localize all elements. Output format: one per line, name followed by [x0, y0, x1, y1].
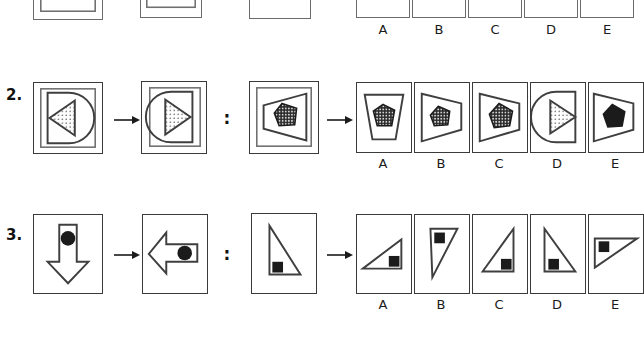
row3-option-letter-b: B: [414, 297, 468, 312]
question-row-2: 2.: [0, 82, 633, 167]
row3-prompt-panel-b[interactable]: [142, 214, 208, 294]
row3-option-panel-e[interactable]: [588, 214, 644, 294]
question-row-3: 3. :: [0, 214, 633, 309]
row2-prompt-panel-c[interactable]: [249, 81, 319, 154]
row1-prompt-panel-a[interactable]: [33, 0, 103, 20]
row1-prompt-panel-b[interactable]: [140, 0, 202, 18]
row2-option-letter-a: A: [356, 156, 410, 171]
row2-prompt-c-graphic: [250, 82, 318, 153]
row2-arrow-icon-1: [112, 112, 142, 128]
row3-option-letter-e: E: [588, 297, 642, 312]
row1-option-panel-c[interactable]: [468, 0, 522, 18]
row3-prompt-panel-a[interactable]: [33, 214, 103, 294]
row3-colon-separator: :: [222, 246, 232, 263]
row2-prompt-a-graphic: [34, 83, 102, 153]
row2-prompt-panel-a[interactable]: [33, 82, 103, 154]
row2-option-letter-d: D: [530, 156, 584, 171]
row2-option-e-graphic: [589, 83, 643, 152]
row3-option-letter-c: C: [472, 297, 526, 312]
row1-prompt-a-graphic: [34, 0, 102, 19]
row2-option-letter-b: B: [414, 156, 468, 171]
row1-prompt-panel-c[interactable]: [249, 0, 311, 19]
row-3-number: 3.: [6, 226, 22, 244]
row1-prompt-c-graphic: [250, 0, 310, 18]
row2-option-c-graphic: [473, 83, 527, 152]
row2-prompt-panel-b[interactable]: [141, 81, 207, 154]
row2-option-panel-d[interactable]: [530, 82, 586, 153]
row3-prompt-b-graphic: [143, 215, 207, 293]
row1-option-letter-e: E: [580, 22, 634, 37]
row2-option-letter-e: E: [588, 156, 642, 171]
row3-prompt-a-graphic: [34, 215, 102, 293]
row2-option-a-graphic: [357, 83, 411, 152]
row3-prompt-c-graphic: [252, 214, 316, 293]
right-arrow-icon: [325, 247, 355, 263]
row2-arrow-icon-2: [325, 112, 355, 128]
row2-prompt-b-graphic: [142, 82, 206, 153]
row3-option-d-graphic: [531, 215, 585, 293]
row2-option-b-graphic: [415, 83, 469, 152]
row1-option-letter-a: A: [356, 22, 410, 37]
row1-option-panel-b[interactable]: [412, 0, 466, 18]
row3-option-panel-b[interactable]: [414, 214, 470, 294]
row3-option-letter-a: A: [356, 297, 410, 312]
row3-option-panel-c[interactable]: [472, 214, 528, 294]
row2-colon-separator: :: [222, 110, 232, 127]
row3-option-a-graphic: [357, 215, 411, 293]
row1-option-letter-c: C: [468, 22, 522, 37]
right-arrow-icon: [112, 247, 142, 263]
row2-option-letter-c: C: [472, 156, 526, 171]
row2-option-panel-b[interactable]: [414, 82, 470, 153]
row1-option-panel-d[interactable]: [524, 0, 578, 18]
row1-option-letter-b: B: [412, 22, 466, 37]
row3-option-b-graphic: [415, 215, 469, 293]
row3-prompt-panel-c[interactable]: [251, 213, 317, 294]
row1-option-letter-d: D: [524, 22, 578, 37]
question-row-1: A B C D E: [0, 0, 633, 40]
row3-option-e-graphic: [589, 215, 643, 293]
row3-option-letter-d: D: [530, 297, 584, 312]
row3-option-c-graphic: [473, 215, 527, 293]
row1-option-panel-e[interactable]: [580, 0, 634, 18]
row3-option-panel-d[interactable]: [530, 214, 586, 294]
row1-option-panel-a[interactable]: [356, 0, 410, 18]
row3-arrow-icon-1: [112, 247, 142, 263]
row2-option-panel-e[interactable]: [588, 82, 644, 153]
row-2-number: 2.: [6, 86, 22, 104]
row1-prompt-b-graphic: [141, 0, 201, 17]
row3-option-panel-a[interactable]: [356, 214, 412, 294]
right-arrow-icon: [325, 112, 355, 128]
row3-arrow-icon-2: [325, 247, 355, 263]
row2-option-panel-c[interactable]: [472, 82, 528, 153]
row2-option-panel-a[interactable]: [356, 82, 412, 153]
row2-option-d-graphic: [531, 83, 585, 152]
right-arrow-icon: [112, 112, 142, 128]
